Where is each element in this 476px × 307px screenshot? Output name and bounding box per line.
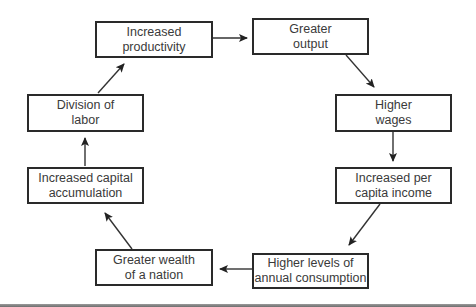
node-higher-wages: Higherwages (335, 94, 452, 132)
arrow-wealth-to-capital (105, 213, 132, 249)
node-label-line: Increased capital (38, 171, 133, 186)
node-higher-levels-of-annual-consumption: Higher levels ofannual consumption (252, 253, 369, 289)
node-label-line: wages (375, 113, 412, 128)
node-increased-productivity: Increasedproductivity (95, 21, 213, 58)
node-label-line: productivity (122, 40, 185, 55)
node-greater-wealth-of-a-nation: Greater wealthof a nation (95, 249, 213, 286)
node-label-line: Higher (375, 98, 412, 113)
node-label-line: Division of (57, 98, 115, 113)
node-label-line: output (289, 37, 331, 52)
arrow-income-to-consumption (349, 204, 380, 245)
node-increased-capital-accumulation: Increased capitalaccumulation (27, 167, 144, 204)
node-label-line: labor (57, 113, 115, 128)
arrow-output-to-wages (346, 55, 374, 87)
node-label-line: Increased per (355, 171, 432, 186)
node-label-line: accumulation (38, 186, 133, 201)
cycle-arrows (0, 0, 476, 307)
node-greater-output: Greateroutput (252, 18, 369, 55)
node-increased-per-capita-income: Increased percapita income (335, 167, 452, 204)
node-division-of-labor: Division oflabor (27, 94, 144, 132)
arrow-division-to-productivity (98, 64, 124, 93)
node-label-line: Greater (289, 22, 331, 37)
node-label-line: capita income (355, 186, 432, 201)
node-label-line: Greater wealth (113, 253, 195, 268)
node-label-line: Higher levels of (255, 256, 367, 271)
node-label-line: annual consumption (255, 271, 367, 286)
node-label-line: Increased (122, 25, 185, 40)
node-label-line: of a nation (113, 268, 195, 283)
